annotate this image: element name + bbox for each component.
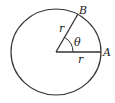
label-b: B xyxy=(78,4,87,17)
circle-diagram: B A r r θ xyxy=(0,0,115,103)
label-r-lower: r xyxy=(78,53,84,66)
label-a: A xyxy=(102,46,111,59)
label-theta: θ xyxy=(74,36,81,49)
angle-arc xyxy=(65,37,74,52)
label-r-upper: r xyxy=(59,22,65,35)
